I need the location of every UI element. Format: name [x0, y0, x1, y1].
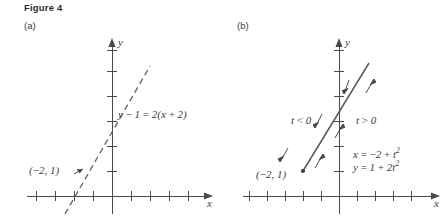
x-axis-label-b: x: [434, 197, 439, 209]
figure-root: Figure 4 (a): [0, 0, 446, 218]
t-positive-label: t > 0: [356, 114, 376, 126]
point-pointer-a: [74, 169, 83, 174]
y-axis-label-a: y: [118, 36, 123, 48]
endpoint-dot-b: [301, 169, 305, 173]
equation-cartesian: y − 1 = 2(x + 2): [118, 108, 187, 120]
panel-a: (a): [0, 0, 223, 218]
point-label-a: (−2, 1): [29, 164, 59, 176]
panel-b: (b): [223, 0, 446, 218]
point-label-b: (−2, 1): [256, 168, 286, 180]
graph-a: [0, 0, 223, 218]
x-axis-label-a: x: [207, 197, 212, 209]
equation-parametric-y: y = 1 + 2t2: [353, 161, 399, 173]
equation-parametric-x: x = −2 + t2: [353, 148, 400, 160]
y-axis-label-b: y: [345, 36, 350, 48]
y-axis-arrowhead-b: [336, 38, 343, 47]
graph-b: [223, 0, 446, 218]
dashed-line-a: [65, 66, 150, 214]
t-negative-label: t < 0: [291, 114, 311, 126]
y-axis-arrowhead-a: [109, 38, 116, 47]
